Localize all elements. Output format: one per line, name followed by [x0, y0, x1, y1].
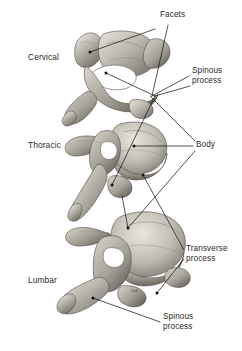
leader-dot-facets-0: [89, 51, 92, 54]
artist-signature: JWK: [131, 288, 139, 293]
leader-dot-spinous-process-lower-0: [92, 297, 95, 300]
region-label-thoracic: Thoracic: [28, 140, 61, 150]
leader-line-spinous-process-upper-1: [155, 86, 190, 96]
leader-dot-body-0: [133, 145, 136, 148]
callout-label-transverse-process: Transverse process: [186, 244, 228, 264]
leader-dot-transverse-process-1: [156, 292, 159, 295]
region-label-lumbar: Lumbar: [28, 275, 57, 285]
callout-label-spinous-process-upper: Spinous process: [192, 66, 222, 86]
region-label-cervical: Cervical: [28, 52, 59, 62]
callout-label-spinous-process-lower: Spinous process: [163, 312, 193, 332]
leader-dot-spinous-process-upper-3: [111, 184, 114, 187]
cervical-vertebra: [62, 31, 170, 126]
leader-dot-spinous-process-upper-2: [105, 72, 108, 75]
leader-dot-body-2: [127, 227, 130, 230]
leader-line-spinous-process-upper-0: [152, 76, 189, 96]
lumbar-vertebra: [57, 212, 190, 314]
leader-dot-transverse-process-0: [142, 174, 145, 177]
thoracic-vertebra: [65, 122, 167, 221]
callout-label-facets: Facets: [160, 10, 185, 20]
callout-label-body: Body: [196, 140, 215, 150]
